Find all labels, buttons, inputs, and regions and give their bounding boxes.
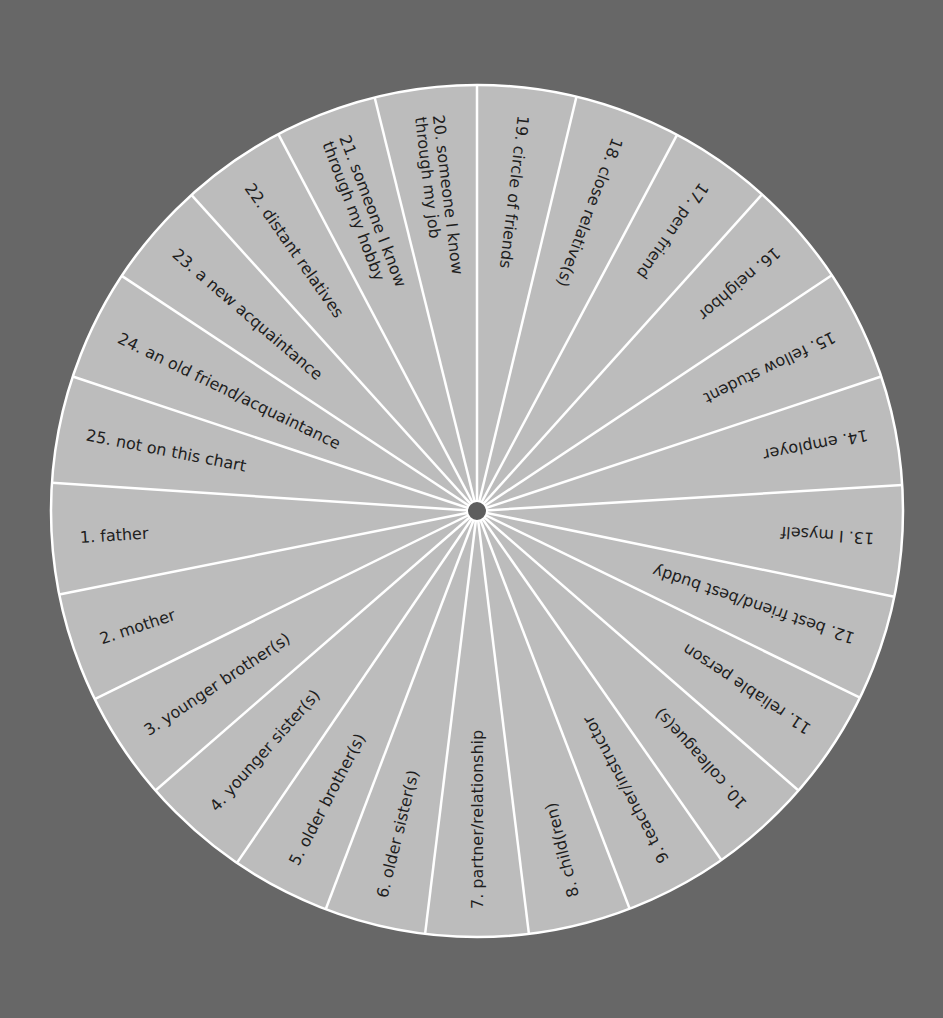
wedge-label-line: 7. partner/relationship [468, 730, 487, 909]
relationship-wheel: 19. circle of friends18. close relative(… [0, 0, 943, 1018]
wedge-label: 7. partner/relationship [468, 730, 487, 909]
wedge-segment: 7. partner/relationship [468, 730, 487, 909]
wheel-hub [467, 501, 487, 521]
relationship-wheel-stage: 19. circle of friends18. close relative(… [0, 0, 943, 1018]
